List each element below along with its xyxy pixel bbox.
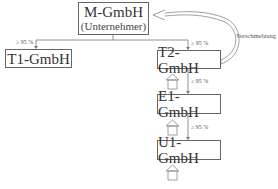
edge-label-m-t2: ≥ 95 % bbox=[191, 40, 208, 46]
house-icon bbox=[166, 120, 179, 135]
merger-label: Verschmelzung bbox=[236, 32, 276, 39]
node-t2-gmbh: T2-GmbH bbox=[157, 50, 221, 69]
house-icon bbox=[166, 74, 179, 89]
node-name: E1-GmbH bbox=[158, 88, 220, 120]
node-m-gmbh: M-GmbH (Unternehmer) bbox=[78, 2, 149, 35]
edge-label-t2-e1: ≥ 95 % bbox=[191, 78, 208, 84]
house-icon bbox=[166, 165, 179, 180]
node-name: T1-GmbH bbox=[7, 51, 70, 67]
node-subtitle: (Unternehmer) bbox=[81, 20, 146, 33]
edge-label-m-t1: ≥ 95 % bbox=[16, 39, 33, 45]
node-e1-gmbh: E1-GmbH bbox=[157, 94, 221, 114]
edge-label-e1-u1: ≥ 95 % bbox=[191, 124, 208, 130]
node-name: M-GmbH bbox=[84, 4, 143, 20]
node-u1-gmbh: U1-GmbH bbox=[157, 140, 221, 160]
node-name: U1-GmbH bbox=[158, 134, 220, 166]
node-t1-gmbh: T1-GmbH bbox=[5, 49, 72, 68]
node-name: T2-GmbH bbox=[158, 44, 220, 76]
